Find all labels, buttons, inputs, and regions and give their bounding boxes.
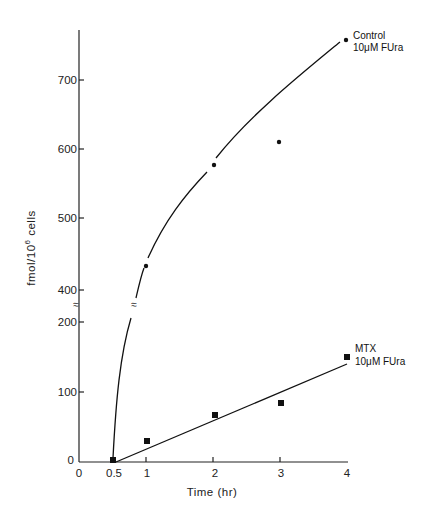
y-tick-400: 400 <box>58 284 77 296</box>
svg-text:fmol/106 cells: fmol/106 cells <box>23 210 37 285</box>
y-axis-break-icon: ≈ <box>73 299 79 310</box>
control-point-2h <box>212 163 216 167</box>
control-point-1h <box>144 264 148 268</box>
y-axis-title: fmol/106 cells <box>23 210 37 285</box>
x-tick-labels: 0 0.5 1 2 3 4 <box>76 467 351 479</box>
x-ticks <box>146 457 280 462</box>
mtx-point-4h <box>344 354 350 360</box>
y-tick-600: 600 <box>58 143 77 155</box>
mtx-point-1h <box>144 438 150 444</box>
y-tick-700: 700 <box>58 74 77 86</box>
series-mtx: MTX 10μM FUra <box>110 343 406 463</box>
y-tick-0: 0 <box>68 454 74 466</box>
control-fit-curve-lower <box>113 318 131 458</box>
x-tick-1: 1 <box>144 467 150 479</box>
x-tick-2: 2 <box>212 467 218 479</box>
control-point-4h <box>344 38 348 42</box>
mtx-point-0.5h <box>110 457 116 463</box>
x-tick-0: 0 <box>76 467 82 479</box>
y-ticks <box>79 80 84 392</box>
mtx-point-2h <box>212 412 218 418</box>
mtx-label-line1: MTX <box>355 343 376 354</box>
y-tick-200: 200 <box>58 316 77 328</box>
x-tick-3: 3 <box>278 467 284 479</box>
mtx-point-3h <box>278 400 284 406</box>
control-fit-curve-mid <box>136 268 144 298</box>
y-tick-100: 100 <box>58 386 77 398</box>
control-label-line1: Control <box>353 30 385 41</box>
mtx-label-line2: 10μM FUra <box>355 356 406 367</box>
control-point-3h <box>277 140 281 144</box>
x-axis-title: Time (hr) <box>187 486 238 498</box>
y-tick-labels: 700 600 500 400 200 100 0 <box>58 74 77 466</box>
y-tick-500: 500 <box>58 212 77 224</box>
x-tick-0.5: 0.5 <box>106 467 122 479</box>
control-label-line2: 10μM FUra <box>353 42 404 53</box>
mtx-fit-line <box>116 364 347 462</box>
chart: 700 600 500 400 200 100 0 ≈ ≈ 0 0.5 1 2 … <box>0 0 435 520</box>
x-tick-4: 4 <box>344 467 351 479</box>
series-control: Control 10μM FUra <box>111 30 404 462</box>
control-fit-curve-upper <box>148 172 207 258</box>
curve-break-icon: ≈ <box>131 299 137 310</box>
